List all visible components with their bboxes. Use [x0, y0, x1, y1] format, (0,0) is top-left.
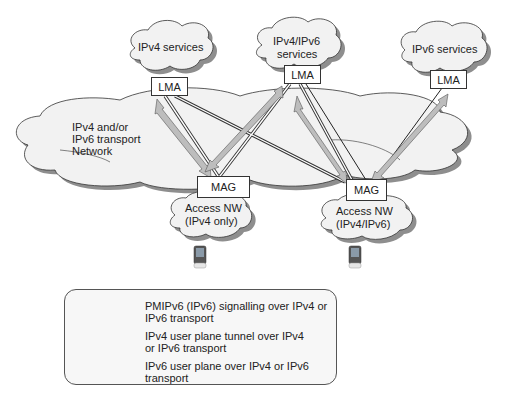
ipv6-services-label: IPv6 services	[412, 43, 477, 56]
access-nw-ipv4-label-1: Access NW	[185, 202, 242, 215]
mag-node-dual[interactable]: MAG	[346, 179, 387, 201]
lma-node-dual[interactable]: LMA	[284, 65, 321, 84]
transport-label-3: Network	[72, 145, 112, 158]
access-nw-dual-label-1: Access NW	[336, 205, 393, 218]
legend-item-signalling: PMIPv6 (IPv6) signalling over IPv4 or IP…	[145, 300, 335, 324]
access-nw-dual-label-2: (IPv4/IPv6)	[336, 218, 390, 231]
lma-node-ipv4[interactable]: LMA	[151, 77, 188, 96]
ipv4-ipv6-services-label-1: IPv4/IPv6	[273, 35, 320, 48]
ipv4-ipv6-services-label-2: services	[277, 48, 317, 61]
access-nw-ipv4-label-2: (IPv4 only)	[185, 215, 238, 228]
legend-item-ipv6-plane: IPv6 user plane over IPv4 or IPv6 transp…	[145, 360, 310, 384]
ipv4-services-label: IPv4 services	[138, 41, 203, 54]
legend-item-ipv4-tunnel: IPv4 user plane tunnel over IPv4 or IPv6…	[145, 330, 315, 354]
lma-node-ipv6[interactable]: LMA	[430, 70, 467, 89]
legend-box: PMIPv6 (IPv6) signalling over IPv4 or IP…	[64, 289, 337, 385]
mag-node-ipv4[interactable]: MAG	[197, 176, 250, 198]
